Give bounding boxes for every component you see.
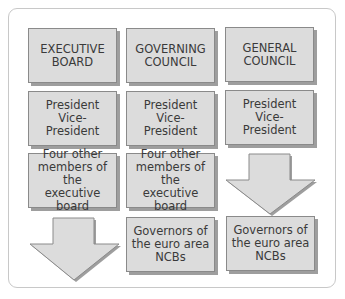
general-council-governors-box: Governors of the euro area NCBs (226, 216, 315, 271)
executive-board-header: EXECUTIVE BOARD (28, 28, 117, 83)
arrow-down-icon (28, 216, 123, 282)
box-label: GOVERNING COUNCIL (135, 43, 205, 69)
box-label: President Vice-President (32, 99, 113, 138)
box-label: Four other members of the executive boar… (32, 148, 113, 213)
box-label: Governors of the euro area NCBs (232, 224, 310, 263)
box-label: President Vice-President (229, 98, 310, 137)
box-label: GENERAL COUNCIL (243, 42, 297, 68)
executive-board-members-box: Four other members of the executive boar… (28, 153, 117, 208)
governing-council-header: GOVERNING COUNCIL (126, 28, 215, 83)
box-label: EXECUTIVE BOARD (40, 43, 104, 69)
general-council-president-box: President Vice-President (225, 90, 314, 145)
governing-council-governors-box: Governors of the euro area NCBs (126, 217, 215, 272)
arrow-down-icon (224, 152, 319, 218)
general-council-header: GENERAL COUNCIL (225, 27, 314, 82)
governing-council-president-box: President Vice-President (126, 91, 215, 146)
box-label: Governors of the euro area NCBs (132, 225, 210, 264)
box-label: Four other members of the executive boar… (130, 148, 211, 213)
governing-council-members-box: Four other members of the executive boar… (126, 153, 215, 208)
box-label: President Vice-President (130, 99, 211, 138)
executive-board-president-box: President Vice-President (28, 91, 117, 146)
